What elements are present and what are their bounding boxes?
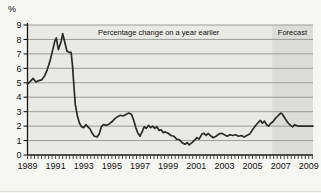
y-axis-label: 7 <box>16 49 21 59</box>
x-axis-label: 1989 <box>17 161 37 171</box>
y-axis-label: 8 <box>16 35 21 45</box>
x-axis-label: 2007 <box>271 161 291 171</box>
y-axis-label: 1 <box>16 136 21 146</box>
x-axis-label: 2003 <box>214 161 234 171</box>
y-axis-label: 6 <box>16 64 21 74</box>
x-axis-label: 1993 <box>74 161 94 171</box>
y-axis-label: 9 <box>16 20 21 30</box>
x-axis-label: 2005 <box>243 161 263 171</box>
y-axis-label: 4 <box>16 92 21 102</box>
y-axis-label: 3 <box>16 107 21 117</box>
y-axis-label: 5 <box>16 78 21 88</box>
y-axis-label: 0 <box>16 150 21 160</box>
inflation-chart: 0123456789198919911993199519971999200120… <box>0 0 321 193</box>
x-axis-label: 1995 <box>102 161 122 171</box>
y-axis-label: 2 <box>16 121 21 131</box>
y-axis-unit-label: % <box>8 4 16 14</box>
forecast-label: Forecast <box>278 28 307 37</box>
x-axis-label: 2009 <box>299 161 319 171</box>
chart-subtitle: Percentage change on a year earlier <box>98 28 219 37</box>
x-axis-label: 1991 <box>46 161 66 171</box>
bottom-divider <box>0 191 321 192</box>
forecast-region <box>272 25 313 155</box>
x-axis-label: 1997 <box>130 161 150 171</box>
x-axis-label: 1999 <box>158 161 178 171</box>
x-axis-label: 2001 <box>186 161 206 171</box>
